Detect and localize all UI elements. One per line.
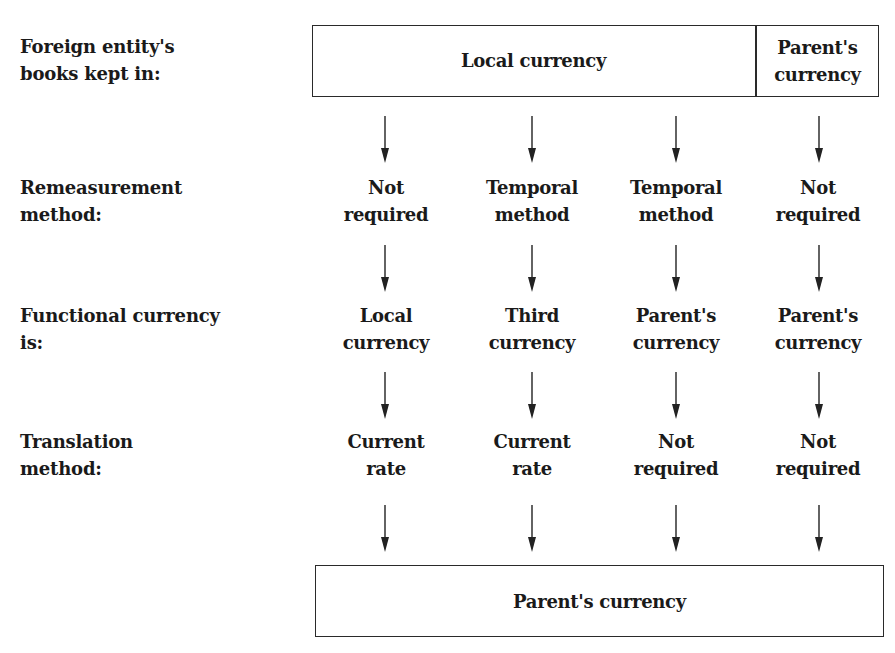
cell-line: rate (457, 455, 607, 482)
label-line: books kept in: (20, 60, 174, 87)
label-line: Functional currency (20, 302, 220, 329)
cell-line: Parent's (601, 302, 751, 329)
cell-line: currency (743, 329, 893, 356)
row-label-translation: Translation method: (20, 428, 133, 482)
down-arrow-icon (379, 372, 391, 419)
col2-remeasurement: Temporal method (457, 174, 607, 228)
down-arrow-icon (379, 245, 391, 292)
label-line: Translation (20, 428, 133, 455)
row-label-books-kept-in: Foreign entity's books kept in: (20, 33, 174, 87)
bottom-box-parents-currency: Parent's currency (315, 588, 884, 615)
cell-line: method (457, 201, 607, 228)
down-arrow-icon (526, 372, 538, 419)
down-arrow-icon (379, 505, 391, 552)
down-arrow-icon (813, 116, 825, 163)
label-line: method: (20, 455, 133, 482)
down-arrow-icon (670, 505, 682, 552)
cell-line: Temporal (457, 174, 607, 201)
down-arrow-icon (670, 245, 682, 292)
col2-translation: Current rate (457, 428, 607, 482)
top-box-local-currency: Local currency (312, 47, 755, 74)
col1-translation: Current rate (311, 428, 461, 482)
down-arrow-icon (670, 372, 682, 419)
down-arrow-icon (526, 505, 538, 552)
down-arrow-icon (526, 116, 538, 163)
cell-line: Third (457, 302, 607, 329)
col3-remeasurement: Temporal method (601, 174, 751, 228)
cell-line: required (743, 455, 893, 482)
cell-line: Not (601, 428, 751, 455)
cell-line: Not (311, 174, 461, 201)
cell-line: method (601, 201, 751, 228)
col1-functional: Local currency (311, 302, 461, 356)
down-arrow-icon (379, 116, 391, 163)
col4-translation: Not required (743, 428, 893, 482)
label-line: method: (20, 201, 182, 228)
col3-functional: Parent's currency (601, 302, 751, 356)
down-arrow-icon (813, 372, 825, 419)
top-box-parents-currency: Parent's currency (756, 34, 879, 88)
label-line: Foreign entity's (20, 33, 174, 60)
col3-translation: Not required (601, 428, 751, 482)
cell-line: Current (311, 428, 461, 455)
label-line: currency (756, 61, 879, 88)
cell-line: required (311, 201, 461, 228)
down-arrow-icon (813, 505, 825, 552)
col2-functional: Third currency (457, 302, 607, 356)
cell-line: required (601, 455, 751, 482)
cell-line: currency (311, 329, 461, 356)
cell-line: required (743, 201, 893, 228)
col4-functional: Parent's currency (743, 302, 893, 356)
col1-remeasurement: Not required (311, 174, 461, 228)
down-arrow-icon (670, 116, 682, 163)
cell-line: Parent's (743, 302, 893, 329)
cell-line: currency (457, 329, 607, 356)
cell-line: Temporal (601, 174, 751, 201)
label-line: Remeasurement (20, 174, 182, 201)
col4-remeasurement: Not required (743, 174, 893, 228)
cell-line: currency (601, 329, 751, 356)
down-arrow-icon (813, 245, 825, 292)
cell-line: Current (457, 428, 607, 455)
label-line: is: (20, 329, 220, 356)
cell-line: Local (311, 302, 461, 329)
row-label-remeasurement: Remeasurement method: (20, 174, 182, 228)
row-label-functional-currency: Functional currency is: (20, 302, 220, 356)
cell-line: Not (743, 174, 893, 201)
cell-line: rate (311, 455, 461, 482)
down-arrow-icon (526, 245, 538, 292)
cell-line: Not (743, 428, 893, 455)
label-line: Parent's (756, 34, 879, 61)
